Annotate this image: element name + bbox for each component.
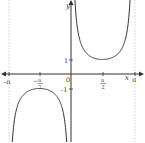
x-tick-label-neg-pi: -π bbox=[4, 78, 11, 86]
x-tick-label-pi: π bbox=[132, 76, 137, 84]
x-tick-label-half-pi-den: 2 bbox=[102, 84, 105, 90]
curve-negative-branch bbox=[12, 89, 66, 143]
x-tick-label-half-pi-num: π bbox=[101, 77, 105, 83]
x-tick-label-neg-half-pi-num: π bbox=[38, 77, 42, 83]
csc-chart: y x 0 1 -1 -π − π 2 π 2 π bbox=[0, 0, 145, 142]
x-tick-label-neg-half-pi-den: 2 bbox=[39, 84, 42, 90]
x-axis-left-arrow-icon bbox=[1, 72, 6, 77]
y-tick-label-one: 1 bbox=[64, 57, 68, 65]
x-axis-right-arrow-icon bbox=[139, 72, 144, 77]
y-tick-label-neg-one: -1 bbox=[61, 86, 67, 94]
x-axis-label: x bbox=[125, 74, 129, 82]
curve-positive-branch bbox=[75, 0, 130, 59]
origin-label: 0 bbox=[66, 76, 70, 84]
